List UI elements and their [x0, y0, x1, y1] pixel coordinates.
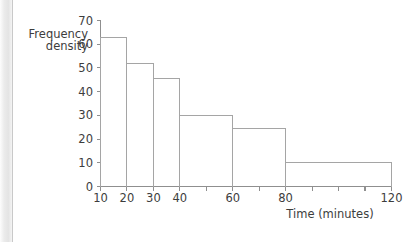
frequency-density-histogram: 0 10 20 30 40 50 60 70 Frequency density — [0, 0, 419, 242]
x-tick-label-60: 60 — [225, 191, 240, 205]
histogram-bar-40-60 — [180, 115, 233, 186]
y-tick-label-0: 0 — [86, 180, 93, 194]
y-tick-label-20: 20 — [78, 132, 93, 146]
x-tick-label-80: 80 — [278, 191, 293, 205]
x-axis-tick-labels: 10 20 30 40 60 80 120 — [93, 191, 402, 205]
histogram-bar-20-30 — [127, 63, 153, 186]
histogram-bars — [101, 37, 392, 186]
y-tick-label-10: 10 — [78, 156, 93, 170]
x-tick-label-120: 120 — [381, 191, 403, 205]
y-tick-label-70: 70 — [78, 14, 93, 28]
histogram-bar-30-40 — [153, 79, 179, 187]
x-tick-label-40: 40 — [172, 191, 187, 205]
x-tick-label-10: 10 — [93, 191, 108, 205]
histogram-bar-60-80 — [233, 128, 286, 186]
y-axis-ticks — [97, 21, 101, 187]
y-axis-title-line-2: density — [46, 39, 88, 53]
histogram-plot-area: 0 10 20 30 40 50 60 70 Frequency density — [0, 0, 419, 242]
histogram-bar-10-20 — [101, 37, 127, 186]
x-axis-ticks — [101, 187, 392, 191]
y-tick-label-40: 40 — [78, 85, 93, 99]
y-tick-label-30: 30 — [78, 108, 93, 122]
histogram-bar-80-120 — [286, 163, 392, 187]
x-tick-label-20: 20 — [120, 191, 135, 205]
y-tick-label-50: 50 — [78, 61, 93, 75]
x-tick-label-30: 30 — [146, 191, 161, 205]
x-axis-title: Time (minutes) — [285, 207, 373, 221]
